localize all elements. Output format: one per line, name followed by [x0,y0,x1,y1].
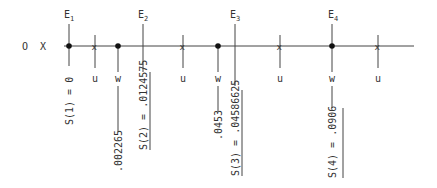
event-3-value: S(3) = .04586625 [230,80,241,176]
u-marker-3-label: u [277,73,283,84]
event-2-label: E2 [138,9,148,23]
u-marker-1-x: x [92,42,98,52]
w-marker-2-label: w [215,73,222,84]
u-marker-3-x: x [277,42,283,52]
event-1-label: E1 [64,9,74,23]
w-marker-1-label: w [115,73,122,84]
u-marker-2-label: u [180,73,186,84]
event-1-dot [66,43,72,49]
event-2-value: S(2) = .0124575 [138,60,149,150]
event-4-label: E4 [328,9,338,23]
u-marker-2-x: x [180,42,186,52]
event-4-dot [329,43,335,49]
w-marker-2-dot [215,43,221,49]
w-marker-1-dot [115,43,121,49]
u-marker-4-x: x [375,42,381,52]
u-marker-1-label: u [92,73,98,84]
w-marker-3-label: w [329,73,336,84]
w-value-2: .0453 [213,110,224,140]
w-value-1: .002265 [113,130,124,172]
event-4-value: S(4) = .0906 [327,106,338,178]
event-3-label: E3 [230,9,240,23]
u-marker-4-label: u [375,73,381,84]
origin-label: O [22,41,28,52]
event-1-value: S(1) = 0 [64,77,75,125]
axis-label: X [40,41,46,52]
timeline-diagram: O X E1 S(1) = 0 x u w .002265 E2 S(2) = … [0,0,437,188]
